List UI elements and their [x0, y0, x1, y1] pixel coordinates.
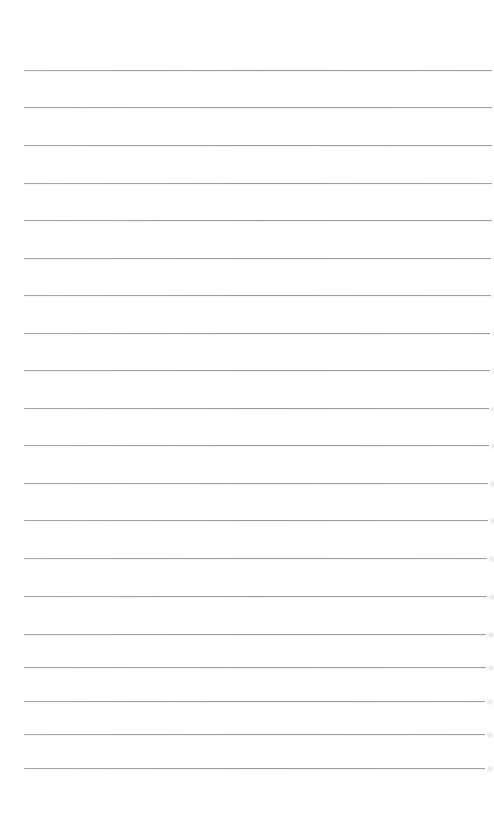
page-edge-shadow — [489, 595, 494, 599]
page-edge-shadow — [488, 666, 494, 670]
ruled-line — [24, 370, 490, 371]
ruled-line — [24, 701, 485, 702]
page-edge-shadow — [490, 519, 494, 523]
ruled-line — [24, 107, 492, 108]
ruled-line — [24, 483, 488, 484]
ruled-line — [24, 667, 486, 668]
ruled-line — [24, 558, 487, 559]
page-edge-shadow — [487, 767, 493, 771]
page-edge-shadow — [487, 733, 493, 737]
ruled-line — [24, 445, 489, 446]
ruled-line — [24, 295, 491, 296]
page-edge-shadow — [490, 482, 494, 486]
ruled-line — [24, 634, 486, 635]
ruled-line — [24, 258, 491, 259]
page-edge-shadow — [487, 700, 493, 704]
ruled-line — [24, 734, 485, 735]
ruled-line — [24, 596, 487, 597]
page-edge-shadow — [489, 557, 494, 561]
page-edge-shadow — [488, 633, 494, 637]
lined-paper-page — [0, 0, 494, 836]
ruled-line — [24, 220, 492, 221]
ruled-line — [24, 70, 492, 71]
ruled-line — [24, 183, 492, 184]
ruled-line — [24, 768, 485, 769]
ruled-line — [24, 333, 490, 334]
ruled-line — [24, 145, 492, 146]
ruled-line — [24, 408, 489, 409]
ruled-line — [24, 520, 488, 521]
